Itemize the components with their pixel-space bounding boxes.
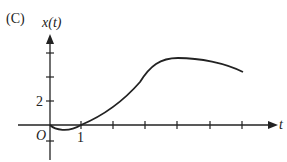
y-axis <box>46 34 54 160</box>
y-axis-arrow-icon <box>46 34 54 44</box>
chart-canvas <box>0 0 287 162</box>
x-axis-arrow-icon <box>268 121 278 129</box>
x-axis <box>18 121 278 129</box>
x-of-t-curve <box>50 58 243 130</box>
